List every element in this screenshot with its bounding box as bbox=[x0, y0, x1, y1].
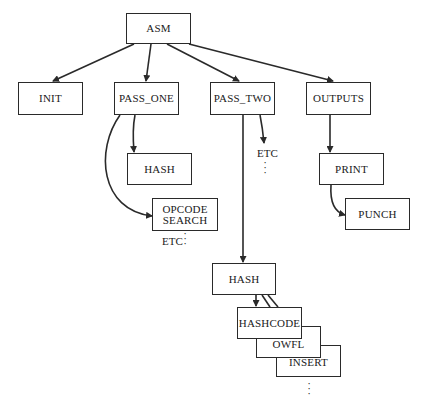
node-print-label: PRINT bbox=[335, 164, 368, 175]
node-outputs-label: OUTPUTS bbox=[313, 93, 364, 104]
node-insert-label: INSERT bbox=[289, 357, 328, 368]
node-asm-label: ASM bbox=[146, 23, 170, 34]
node-hash-pass-two-label: HASH bbox=[229, 274, 260, 285]
node-print: PRINT bbox=[319, 153, 384, 185]
edge-asm-pass-two bbox=[167, 44, 239, 81]
node-hash-pass-two: HASH bbox=[212, 263, 276, 295]
ellipsis-insert: ··· bbox=[307, 381, 311, 396]
edge-pass-one-hash bbox=[133, 115, 135, 152]
node-hashcode-label: HASHCODE bbox=[239, 318, 301, 329]
ellipsis-pass-two: ··· bbox=[263, 160, 267, 175]
node-hash-pass-one: HASH bbox=[127, 153, 192, 185]
edge-asm-pass-one bbox=[146, 44, 151, 81]
node-pass-one: PASS_ONE bbox=[114, 82, 179, 115]
node-pass-one-label: PASS_ONE bbox=[119, 93, 174, 104]
node-pass-two-label: PASS_TWO bbox=[214, 93, 271, 104]
node-init-label: INIT bbox=[39, 93, 62, 104]
node-owfl-label: OWFL bbox=[273, 339, 305, 350]
node-init: INIT bbox=[18, 82, 83, 115]
edge-asm-outputs bbox=[189, 44, 333, 81]
node-outputs: OUTPUTS bbox=[306, 82, 371, 115]
node-hashcode: HASHCODE bbox=[237, 307, 302, 339]
edge-print-punch bbox=[331, 185, 345, 215]
node-opcode-search-label-2: SEARCH bbox=[163, 215, 208, 226]
node-opcode-search-label-1: OPCODE bbox=[162, 204, 207, 215]
node-pass-two: PASS_TWO bbox=[210, 82, 275, 115]
etc-label-pass-two: ETC bbox=[257, 148, 278, 159]
node-punch: PUNCH bbox=[345, 198, 410, 230]
node-asm: ASM bbox=[126, 13, 191, 44]
edge-asm-init bbox=[53, 44, 134, 81]
ellipsis-opcode: ··· bbox=[183, 231, 187, 246]
edge-pass-two-etc bbox=[260, 115, 264, 143]
node-punch-label: PUNCH bbox=[358, 209, 396, 220]
node-hash-pass-one-label: HASH bbox=[144, 164, 175, 175]
etc-label-opcode: ETC bbox=[162, 236, 183, 247]
